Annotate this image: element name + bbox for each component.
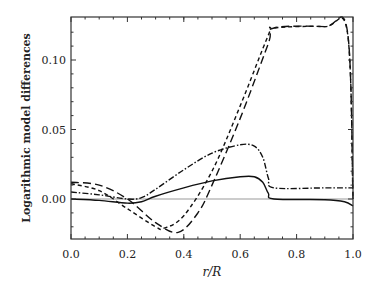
y-tick-label: 0.05 <box>42 124 67 137</box>
x-tick-label: 0.8 <box>288 248 306 261</box>
series-long-dashed <box>71 17 353 233</box>
x-tick-label: 0.6 <box>231 248 249 261</box>
plot-frame <box>71 17 353 239</box>
x-tick-label: 1.0 <box>344 248 362 261</box>
x-axis-label: r/R <box>203 265 222 279</box>
y-axis-label: Logarithmic model differences <box>20 33 33 223</box>
y-tick-label: 0.10 <box>42 54 67 67</box>
x-tick-label: 0.4 <box>175 248 193 261</box>
x-tick-label: 0.2 <box>119 248 137 261</box>
series-layer <box>71 17 353 233</box>
ticks-layer: 0.00.20.40.60.81.00.000.050.10 <box>42 17 362 261</box>
chart: 0.00.20.40.60.81.00.000.050.10 Logarithm… <box>0 0 381 291</box>
y-tick-label: 0.00 <box>42 193 67 206</box>
x-tick-label: 0.0 <box>62 248 80 261</box>
